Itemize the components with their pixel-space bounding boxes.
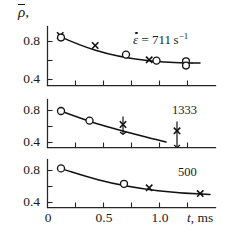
panel-711-annotation: ε = 711 s−1 <box>133 32 188 46</box>
figure-root: ρ, 0.8 0.4 0.8 0.4 0.8 0.4 0 0.5 1.0 t, … <box>0 0 244 235</box>
marker-circle <box>58 34 65 41</box>
panel-711-exponent: −1 <box>179 31 189 41</box>
panel-500-ytick-label-high: 0.8 <box>12 163 40 177</box>
y-axis-title: ρ, <box>18 5 29 20</box>
panel-1333-curve <box>60 111 166 142</box>
panel-1333-ytick-label-high: 0.8 <box>12 103 40 117</box>
panel-1333-ytick-label-low: 0.4 <box>12 135 40 149</box>
x-axis-unit: , ms <box>191 210 214 225</box>
error-arrow <box>174 122 180 148</box>
epsilon-dot-symbol: ε <box>133 33 138 46</box>
marker-circle <box>183 62 190 69</box>
x-axis-title: t, ms <box>187 211 213 225</box>
marker-circle <box>123 51 130 58</box>
panel-711-ytick-label-high: 0.8 <box>12 34 40 48</box>
panel-711 <box>48 27 216 86</box>
xtick-label-0: 0 <box>31 211 65 225</box>
marker-cross <box>92 42 98 48</box>
marker-circle <box>86 117 93 124</box>
panel-711-equals: = <box>138 32 152 47</box>
panel-500-annotation: 500 <box>178 166 197 179</box>
marker-circle <box>58 165 65 172</box>
xtick-label-0.5: 0.5 <box>87 211 121 225</box>
marker-circle <box>58 108 65 115</box>
y-axis-title-comma: , <box>25 4 29 20</box>
panel-711-value: 711 <box>152 32 171 47</box>
panel-500-ytick-label-low: 0.4 <box>12 195 40 209</box>
xtick-label-1.0: 1.0 <box>143 211 177 225</box>
marker-circle <box>121 180 128 187</box>
panel-711-ytick-label-low: 0.4 <box>12 72 40 86</box>
panel-1333-annotation: 1333 <box>172 104 197 117</box>
rho-overbar-symbol: ρ <box>18 5 25 20</box>
marker-circle <box>153 57 160 64</box>
